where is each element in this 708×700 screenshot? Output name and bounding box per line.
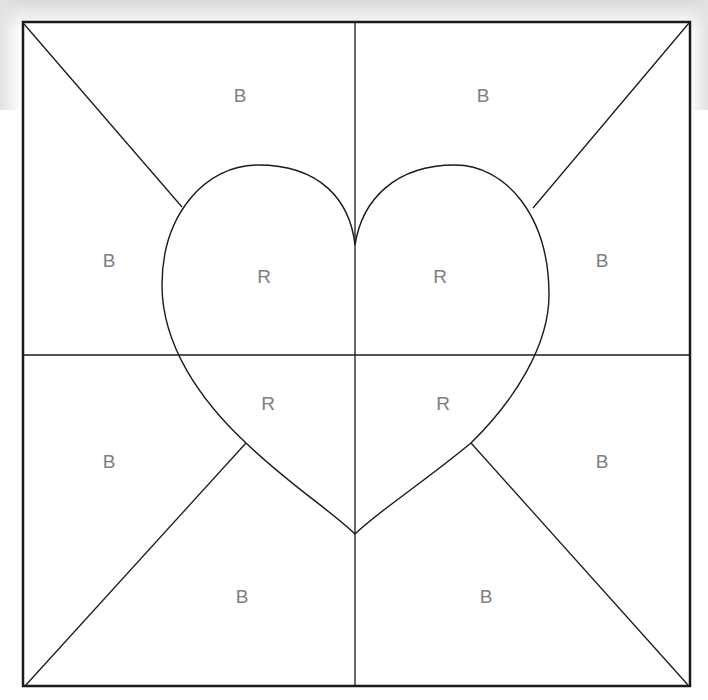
region-label-r: R (261, 394, 275, 413)
region-label-b: B (103, 251, 116, 270)
region-label-b: B (596, 452, 609, 471)
region-label-r: R (436, 394, 450, 413)
region-label-b: B (103, 452, 116, 471)
region-label-b: B (236, 587, 249, 606)
region-label-b: B (480, 587, 493, 606)
outer-square (23, 22, 690, 686)
quilt-block-diagram (0, 0, 708, 700)
region-label-r: R (433, 267, 447, 286)
region-label-r: R (257, 267, 271, 286)
region-label-b: B (234, 86, 247, 105)
region-label-b: B (596, 251, 609, 270)
region-label-b: B (477, 86, 490, 105)
